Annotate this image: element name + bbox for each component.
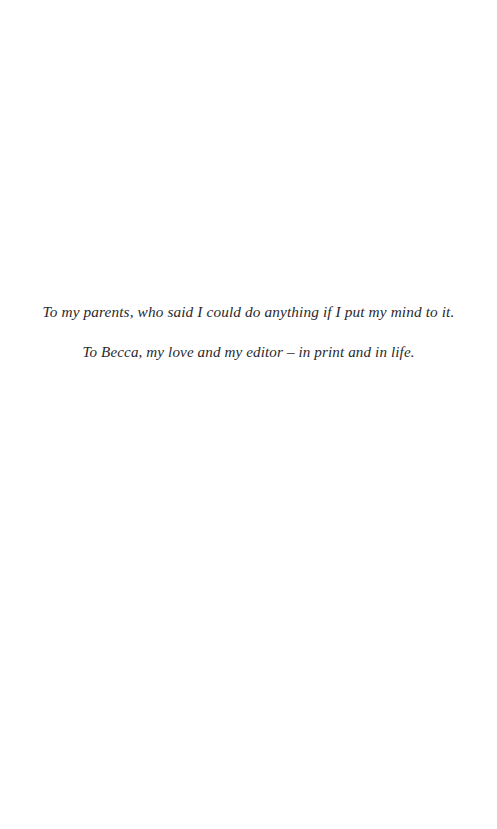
dedication-page: To my parents, who said I could do anyth… — [0, 0, 497, 829]
dedication-line-parents: To my parents, who said I could do anyth… — [0, 292, 497, 332]
dedication-line-becca: To Becca, my love and my editor – in pri… — [0, 332, 497, 372]
dedication-block: To my parents, who said I could do anyth… — [0, 292, 497, 372]
